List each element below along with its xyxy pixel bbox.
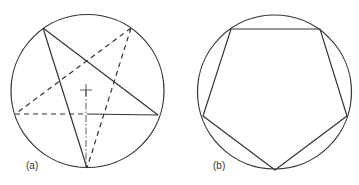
panel-b-pentagon [198, 15, 352, 170]
center-mark-icon [80, 84, 92, 96]
circle-a [11, 15, 164, 168]
dashed-line [87, 28, 131, 168]
solid-construction-lines [43, 28, 158, 168]
panel-a-label: (a) [26, 160, 38, 171]
solid-line [43, 28, 87, 168]
solid-line [87, 114, 158, 115]
panel-a-star-construction [11, 15, 164, 169]
inscribed-pentagon [203, 29, 347, 170]
diagram-canvas [0, 0, 359, 185]
dashed-construction-lines [15, 28, 131, 168]
panel-b-label: (b) [213, 160, 225, 171]
circle-b [198, 15, 352, 169]
solid-line [43, 28, 158, 115]
dashed-line [18, 28, 131, 112]
